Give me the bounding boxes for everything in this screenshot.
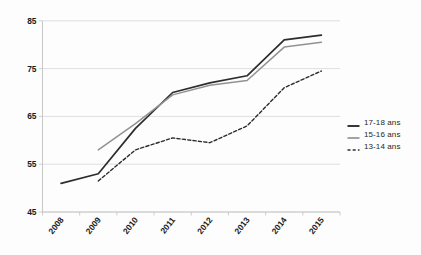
legend-line-icon: [347, 145, 360, 155]
chart-page: 4555657585 20082009201020112012201320142…: [0, 0, 421, 255]
x-axis-label-2012: 2012: [195, 215, 215, 236]
x-axis-label-2014: 2014: [269, 215, 289, 236]
legend-swatch-13-14: [347, 141, 360, 151]
legend-item-13-14[interactable]: 13-14 ans: [347, 140, 419, 152]
legend-label-13-14: 13-14 ans: [364, 142, 400, 151]
legend-label-15-16: 15-16 ans: [364, 130, 400, 139]
x-axis-label-2008: 2008: [46, 215, 66, 236]
data-series: [61, 35, 321, 183]
x-tick-marks: [43, 212, 341, 216]
x-axis-labels: 20082009201020112012201320142015: [46, 215, 326, 236]
gridlines: [43, 21, 341, 212]
x-axis-label-2011: 2011: [158, 215, 177, 236]
series-line-17-18-ans: [61, 35, 321, 183]
y-axis-label-85: 85: [27, 16, 37, 26]
legend-item-17-18[interactable]: 17-18 ans: [347, 116, 419, 128]
x-axis-label-2010: 2010: [121, 215, 141, 236]
y-axis-label-45: 45: [27, 207, 37, 217]
y-axis-label-65: 65: [27, 111, 37, 121]
legend-swatch-15-16: [347, 129, 360, 139]
x-axis-label-2013: 2013: [232, 215, 252, 236]
y-tick-marks: [39, 21, 43, 212]
legend-swatch-17-18: [347, 117, 360, 127]
x-axis-label-2009: 2009: [84, 215, 104, 236]
y-axis-labels: 4555657585: [27, 16, 37, 217]
y-axis-label-55: 55: [27, 159, 37, 169]
legend-item-15-16[interactable]: 15-16 ans: [347, 128, 419, 140]
x-axis-label-2015: 2015: [307, 215, 327, 236]
chart-legend: 17-18 ans 15-16 ans 13-14 ans: [347, 116, 419, 152]
legend-label-17-18: 17-18 ans: [364, 118, 400, 127]
y-axis-label-75: 75: [27, 64, 37, 74]
